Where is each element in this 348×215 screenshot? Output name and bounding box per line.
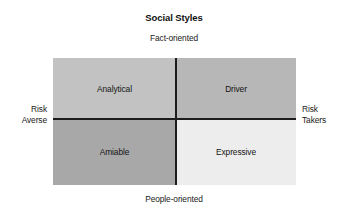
axis-label-right-line1: Risk: [302, 104, 348, 115]
social-styles-figure: Social Styles Fact-oriented People-orien…: [0, 0, 348, 215]
quadrant-label-amiable: Amiable: [100, 147, 130, 157]
quadrant-label-analytical: Analytical: [97, 84, 132, 94]
axis-label-left-line1: Risk: [0, 104, 47, 115]
quadrant-matrix: Analytical Driver Amiable Expressive: [53, 58, 296, 185]
quadrant-analytical: Analytical: [53, 58, 176, 119]
axis-label-left: Risk Averse: [0, 104, 47, 126]
vertical-axis-line: [175, 58, 177, 185]
axis-label-left-line2: Averse: [0, 115, 47, 126]
axis-label-right: Risk Takers: [302, 104, 348, 126]
axis-label-bottom: People-oriented: [0, 194, 348, 205]
quadrant-driver: Driver: [176, 58, 296, 119]
quadrant-label-driver: Driver: [225, 84, 247, 94]
axis-label-top: Fact-oriented: [0, 33, 348, 44]
axis-label-right-line2: Takers: [302, 115, 348, 126]
quadrant-amiable: Amiable: [53, 119, 176, 185]
page-title: Social Styles: [0, 12, 348, 23]
quadrant-label-expressive: Expressive: [216, 147, 256, 157]
quadrant-expressive: Expressive: [176, 119, 296, 185]
